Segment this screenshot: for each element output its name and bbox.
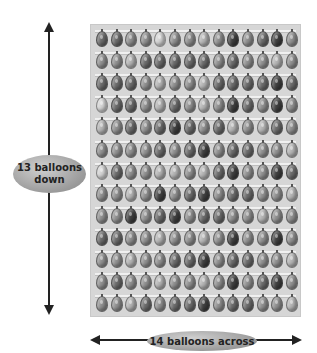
balloon-icon — [184, 97, 196, 113]
balloon-icon — [227, 252, 239, 268]
balloon-icon — [286, 119, 298, 135]
balloon-icon — [286, 274, 298, 290]
balloon-icon — [184, 31, 196, 47]
balloon-icon — [169, 164, 181, 180]
balloon-icon — [125, 75, 137, 91]
balloon-icon — [198, 97, 210, 113]
balloon-icon — [257, 53, 269, 69]
balloon-icon — [242, 296, 254, 312]
balloon-icon — [96, 75, 108, 91]
balloon-icon — [111, 274, 123, 290]
balloon-icon — [213, 53, 225, 69]
balloon-icon — [140, 186, 152, 202]
balloon-icon — [184, 296, 196, 312]
balloon-icon — [213, 31, 225, 47]
balloon-icon — [213, 252, 225, 268]
balloon-icon — [184, 274, 196, 290]
balloon-icon — [125, 53, 137, 69]
balloon-icon — [96, 186, 108, 202]
balloon-icon — [96, 208, 108, 224]
balloon-row — [95, 140, 296, 162]
balloon-icon — [198, 53, 210, 69]
balloon-icon — [271, 186, 283, 202]
balloon-icon — [154, 252, 166, 268]
balloon-icon — [271, 252, 283, 268]
balloon-icon — [184, 53, 196, 69]
balloon-icon — [227, 230, 239, 246]
balloon-icon — [227, 53, 239, 69]
rows-direction-text: down — [34, 174, 64, 186]
balloon-icon — [169, 53, 181, 69]
balloon-icon — [111, 119, 123, 135]
balloon-icon — [242, 252, 254, 268]
balloon-icon — [227, 296, 239, 312]
balloon-icon — [111, 164, 123, 180]
balloon-icon — [154, 186, 166, 202]
balloon-icon — [96, 97, 108, 113]
balloon-icon — [96, 31, 108, 47]
balloon-icon — [140, 296, 152, 312]
balloon-row — [95, 95, 296, 117]
balloon-icon — [227, 274, 239, 290]
balloon-icon — [242, 31, 254, 47]
balloon-icon — [184, 164, 196, 180]
balloon-row — [95, 162, 296, 184]
balloon-icon — [227, 164, 239, 180]
balloon-icon — [140, 208, 152, 224]
balloon-icon — [271, 53, 283, 69]
balloon-icon — [154, 296, 166, 312]
balloon-icon — [242, 97, 254, 113]
balloon-icon — [125, 97, 137, 113]
balloon-icon — [169, 97, 181, 113]
balloon-icon — [125, 274, 137, 290]
balloon-icon — [140, 252, 152, 268]
balloon-icon — [257, 97, 269, 113]
balloon-icon — [213, 164, 225, 180]
balloon-icon — [286, 252, 298, 268]
balloon-icon — [140, 31, 152, 47]
balloon-icon — [96, 53, 108, 69]
balloon-icon — [242, 164, 254, 180]
balloon-icon — [125, 230, 137, 246]
balloon-icon — [257, 296, 269, 312]
balloon-icon — [271, 296, 283, 312]
balloon-icon — [286, 97, 298, 113]
balloon-icon — [169, 274, 181, 290]
arrow-down-icon — [44, 305, 54, 315]
balloon-icon — [271, 119, 283, 135]
balloon-icon — [213, 119, 225, 135]
balloon-icon — [140, 164, 152, 180]
balloon-icon — [125, 164, 137, 180]
balloon-icon — [242, 119, 254, 135]
balloon-icon — [198, 296, 210, 312]
balloon-icon — [198, 230, 210, 246]
balloon-icon — [154, 164, 166, 180]
balloon-icon — [111, 186, 123, 202]
balloon-icon — [271, 97, 283, 113]
balloon-icon — [169, 142, 181, 158]
balloon-icon — [227, 75, 239, 91]
balloon-icon — [198, 186, 210, 202]
balloon-row — [95, 29, 296, 51]
balloon-icon — [227, 208, 239, 224]
balloon-icon — [227, 97, 239, 113]
balloon-icon — [242, 186, 254, 202]
balloon-icon — [286, 53, 298, 69]
balloon-grid-panel — [90, 24, 301, 317]
balloon-icon — [111, 31, 123, 47]
balloon-icon — [111, 230, 123, 246]
balloon-icon — [96, 230, 108, 246]
balloon-icon — [286, 230, 298, 246]
balloon-icon — [242, 230, 254, 246]
balloon-icon — [227, 186, 239, 202]
balloon-icon — [213, 274, 225, 290]
balloon-row — [95, 117, 296, 139]
balloon-row — [95, 73, 296, 95]
balloon-icon — [257, 75, 269, 91]
balloon-icon — [271, 31, 283, 47]
balloon-row — [95, 272, 296, 294]
balloon-row — [95, 228, 296, 250]
balloon-icon — [242, 274, 254, 290]
balloon-icon — [184, 75, 196, 91]
balloon-icon — [111, 97, 123, 113]
